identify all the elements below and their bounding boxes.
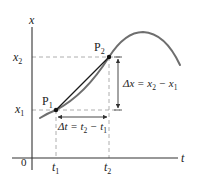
delta-x-label: Δx = x2 − x1 (122, 77, 178, 92)
secant-chord (56, 57, 109, 110)
t2-label: t2 (104, 160, 111, 174)
delta-t-label: Δt = t2 − t1 (57, 120, 107, 135)
position-time-diagram: x t 0 x2 x1 t1 t2 P1 P2 Δx = x2 − x1 Δt … (0, 0, 205, 174)
horizontal-axis-label: t (181, 151, 185, 165)
point-p2 (107, 55, 111, 59)
p2-label: P2 (94, 40, 105, 56)
t1-label: t1 (52, 160, 59, 174)
x2-label: x2 (12, 50, 22, 66)
p1-label: P1 (42, 94, 53, 110)
origin-label: 0 (21, 156, 27, 168)
point-p1 (54, 108, 58, 112)
x1-label: x1 (14, 102, 24, 118)
vertical-axis-label: x (28, 13, 35, 27)
